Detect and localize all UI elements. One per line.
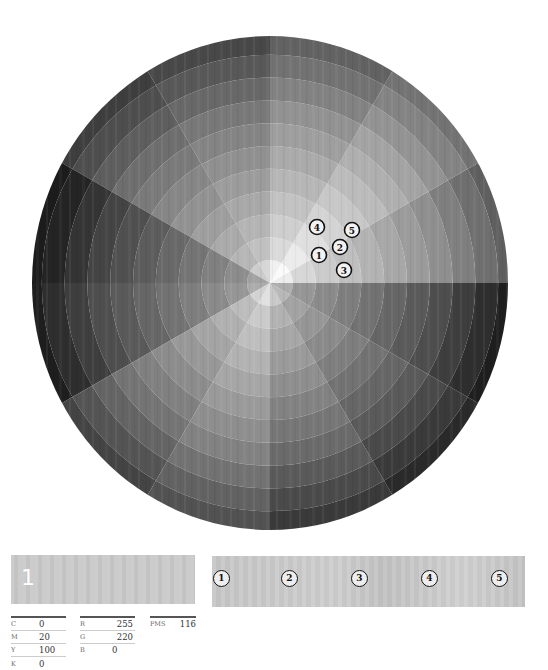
strip-chip-3: 3	[351, 570, 368, 587]
selected-swatch: 1	[11, 555, 195, 604]
wheel-marker-1: 1	[312, 248, 327, 263]
rgb-label: R	[80, 620, 102, 628]
rgb-value: 0	[102, 645, 135, 655]
rgb-label: G	[80, 633, 102, 641]
rgb-table: R255 G220 B0	[80, 616, 135, 656]
rgb-row-r: R255	[80, 618, 135, 631]
strip-chip-5: 5	[491, 570, 508, 587]
rgb-row-g: G220	[80, 631, 135, 644]
texture-overlay	[0, 0, 548, 545]
wheel-marker-3: 3	[337, 263, 352, 278]
cmyk-label: C	[11, 620, 39, 628]
wheel-marker-2: 2	[333, 240, 348, 255]
color-wheel: 12345	[0, 0, 548, 545]
swatch-strip: 12345	[212, 556, 525, 607]
cmyk-table: C0 M20 Y100 K0	[11, 616, 66, 670]
pms-table: PMS116	[150, 616, 196, 630]
pms-row: PMS116	[150, 618, 196, 630]
svg-text:1: 1	[316, 251, 322, 261]
cmyk-label: Y	[11, 646, 39, 654]
rgb-value: 255	[102, 619, 135, 629]
cmyk-value: 20	[39, 632, 66, 642]
strip-chip-4: 4	[421, 570, 438, 587]
cmyk-label: K	[11, 660, 39, 668]
selected-swatch-number: 1	[21, 565, 35, 590]
svg-text:4: 4	[314, 223, 320, 233]
cmyk-label: M	[11, 633, 39, 641]
cmyk-row-c: C0	[11, 618, 66, 631]
cmyk-row-y: Y100	[11, 644, 66, 657]
cmyk-row-k: K0	[11, 657, 66, 669]
wheel-marker-4: 4	[310, 220, 325, 235]
rgb-label: B	[80, 646, 102, 654]
svg-text:5: 5	[349, 226, 355, 236]
cmyk-value: 0	[39, 659, 66, 669]
strip-chip-1: 1	[213, 570, 230, 587]
cmyk-row-m: M20	[11, 631, 66, 644]
cmyk-value: 100	[39, 645, 66, 655]
wheel-marker-5: 5	[345, 223, 360, 238]
pms-value: 116	[174, 619, 196, 629]
rgb-value: 220	[102, 632, 135, 642]
svg-text:2: 2	[337, 243, 343, 253]
strip-chip-2: 2	[281, 570, 298, 587]
pms-label: PMS	[150, 620, 174, 628]
rgb-row-b: B0	[80, 644, 135, 656]
svg-text:3: 3	[341, 266, 347, 276]
cmyk-value: 0	[39, 619, 66, 629]
